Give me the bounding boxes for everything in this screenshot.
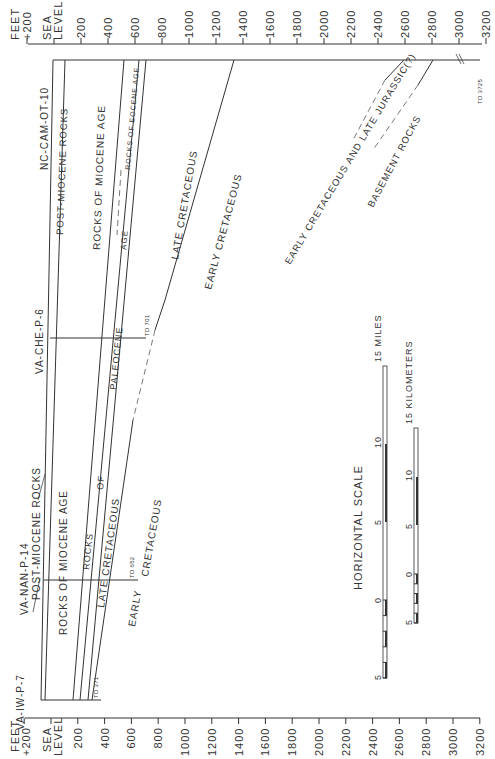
top-axis-tick-label: 2200 bbox=[345, 10, 357, 38]
bottom-axis-tick-label: 2600 bbox=[393, 728, 405, 756]
bottom-axis-tick-label: 200 bbox=[72, 727, 84, 748]
label-late-cretaceous-north: LATE CRETACEOUS bbox=[169, 149, 199, 260]
km-subdivision-fill bbox=[416, 613, 418, 623]
miles-subdivision-fill bbox=[385, 600, 387, 616]
unit-labels: POST-MIOCENE ROCKS POST-MIOCENE ROCKS RO… bbox=[31, 51, 423, 635]
well-td: TD 652 bbox=[129, 556, 135, 578]
bottom-axis-tick-label: 800 bbox=[152, 727, 164, 748]
label-late-cretaceous-south: LATE CRETACEOUS bbox=[95, 497, 121, 608]
label-paleocene-age: AGE bbox=[119, 230, 130, 251]
top-axis-plus-label: +200 bbox=[21, 11, 33, 40]
label-post-miocene-south: POST-MIOCENE ROCKS bbox=[31, 467, 42, 600]
late-cretaceous-base-dashed bbox=[133, 330, 155, 420]
eocene-dashed-boundary bbox=[117, 170, 121, 235]
top-axis-tick-label: 3200 bbox=[480, 10, 492, 38]
cross-section-diagram: 2004006008001000120014001600180020002200… bbox=[0, 0, 495, 759]
late-cretaceous-base-line bbox=[155, 60, 234, 330]
top-depth-axis: 2004006008001000120014001600180020002200… bbox=[9, 1, 492, 44]
label-early-cretaceous-south-1: EARLY bbox=[126, 589, 143, 627]
well-name: VA-NAN-P-14 bbox=[19, 543, 30, 616]
km-tick-minus5: 5 bbox=[404, 619, 414, 625]
top-axis-tick-label: 2600 bbox=[399, 10, 411, 38]
well-name: VA-IW-P-7 bbox=[15, 674, 26, 730]
top-axis-tick-label: 600 bbox=[129, 17, 141, 38]
bottom-axis-tick-label: 1800 bbox=[286, 728, 298, 756]
label-post-miocene-north: POST-MIOCENE ROCKS bbox=[54, 107, 69, 235]
top-axis-tick-label: 2400 bbox=[372, 10, 384, 38]
label-miocene-south: ROCKS OF MIOCENE AGE bbox=[58, 490, 69, 635]
label-early-cretaceous-mid: EARLY CRETACEOUS bbox=[202, 172, 244, 290]
bottom-axis-tick-label: 1200 bbox=[206, 728, 218, 756]
bottom-axis-tick-label: 3200 bbox=[474, 728, 486, 756]
break-icon bbox=[456, 54, 464, 64]
well-td: TD 3725 bbox=[477, 79, 483, 104]
miles-scale-bar: 15 MILES 10 5 0 5 bbox=[373, 314, 387, 680]
top-axis-tick-label: 1000 bbox=[183, 10, 195, 38]
well-td: TD 701 bbox=[144, 314, 150, 336]
bottom-axis-tick-label: 600 bbox=[125, 727, 137, 748]
label-miocene-north: ROCKS OF MIOCENE AGE bbox=[91, 105, 107, 250]
bottom-axis-tick-label: 2000 bbox=[313, 728, 325, 756]
top-axis-tick-label: 200 bbox=[75, 17, 87, 38]
top-axis-tick-label: 2800 bbox=[426, 10, 438, 38]
well-va-che-p-6: VA-CHE-P-6 TD 701 bbox=[34, 308, 150, 374]
bottom-axis-tick-label: 1000 bbox=[179, 728, 191, 756]
bottom-axis-tick-label: 3000 bbox=[447, 728, 459, 756]
km-tick-5: 5 bbox=[404, 523, 414, 529]
km-scale-bar: 15 KILOMETERS 10 5 0 5 bbox=[404, 340, 418, 625]
miles-tick-5: 5 bbox=[373, 519, 383, 525]
km-subdivision-fill bbox=[416, 574, 418, 584]
top-axis-tick-label: 1600 bbox=[264, 10, 276, 38]
bottom-axis-tick-label: 2400 bbox=[367, 728, 379, 756]
top-axis-tick-label: 400 bbox=[102, 17, 114, 38]
well-td: TD 371 bbox=[93, 676, 99, 698]
bottom-axis-tick-label: 2200 bbox=[340, 728, 352, 756]
miles-tick-minus5: 5 bbox=[373, 674, 383, 680]
horizontal-scale: HORIZONTAL SCALE 15 MILES 10 5 0 5 15 KI… bbox=[352, 314, 418, 680]
top-axis-tick-label: 1800 bbox=[291, 10, 303, 38]
bottom-axis-tick-label: 1400 bbox=[233, 728, 245, 756]
top-axis-tick-label: 1400 bbox=[237, 10, 249, 38]
km-bar-fill bbox=[416, 477, 418, 525]
km-subdivision-fill bbox=[416, 594, 418, 604]
km-tick-0: 0 bbox=[404, 571, 414, 577]
well-name: NC-CAM-OT-10 bbox=[39, 87, 50, 170]
bottom-axis-level-label: LEVEL bbox=[52, 717, 64, 756]
label-early-cretaceous-south-2: CRETACEOUS bbox=[139, 498, 164, 577]
top-axis-tick-label: 2000 bbox=[318, 10, 330, 38]
miles-tick-0: 0 bbox=[373, 597, 383, 603]
km-label: 15 KILOMETERS bbox=[404, 340, 414, 424]
top-axis-tick-label: 1200 bbox=[210, 10, 222, 38]
top-axis-unit-label: FEET bbox=[9, 8, 21, 40]
label-paleocene: PALEOCENE bbox=[108, 326, 125, 390]
scale-title: HORIZONTAL SCALE bbox=[352, 465, 364, 590]
miles-bar-fill bbox=[385, 444, 387, 522]
km-tick-10: 10 bbox=[404, 469, 414, 481]
miles-subdivision-fill bbox=[385, 662, 387, 678]
bottom-axis-tick-label: 1600 bbox=[259, 728, 271, 756]
bottom-axis-plus-label: +200 bbox=[20, 727, 32, 756]
miles-tick-10: 10 bbox=[373, 436, 383, 448]
miles-label: 15 MILES bbox=[373, 314, 383, 362]
top-axis-tick-label: 3000 bbox=[453, 10, 465, 38]
bottom-axis-tick-label: 2800 bbox=[420, 728, 432, 756]
bottom-axis-tick-label: 400 bbox=[99, 727, 111, 748]
label-paleocene-of: OF bbox=[95, 475, 106, 490]
basement-top-solid bbox=[418, 60, 433, 85]
top-axis-tick-label: 800 bbox=[156, 17, 168, 38]
top-axis-level-label: LEVEL bbox=[52, 1, 64, 40]
well-name: VA-CHE-P-6 bbox=[34, 308, 45, 374]
miles-subdivision-fill bbox=[385, 631, 387, 647]
bottom-depth-axis: 2004006008001000120014001600180020002200… bbox=[9, 717, 486, 756]
